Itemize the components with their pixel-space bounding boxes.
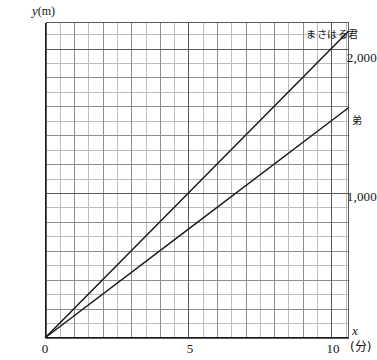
y-axis-label: y(m) (32, 4, 55, 17)
y-tick-label-2000: 2,000 (333, 51, 377, 64)
y-axis-unit: (m) (38, 4, 55, 18)
x-tick-label-10: 10 (321, 342, 345, 355)
line-chart-canvas (0, 0, 377, 360)
x-tick-label-5: 5 (178, 342, 202, 355)
x-axis-label: x (352, 324, 358, 337)
x-axis-unit: (分) (350, 341, 371, 353)
grid-minor (46, 23, 349, 338)
x-tick-label-0: 0 (33, 342, 57, 355)
series-label-masaharu: まさはる君 (306, 26, 359, 41)
y-tick-label-1000: 1,000 (333, 190, 377, 203)
series-label-otouto: 弟 (352, 112, 363, 127)
chart-figure: y(m) x (分) 2,000 1,000 0 5 10 まさはる君 弟 (0, 0, 377, 360)
